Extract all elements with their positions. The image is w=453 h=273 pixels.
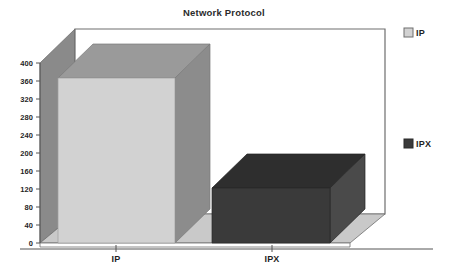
y-tick-label: 400 — [20, 59, 33, 68]
network-protocol-bar-chart: Network Protocol — [0, 0, 453, 273]
legend-swatch-ip — [404, 28, 413, 37]
bar-ip-front-face — [58, 78, 175, 243]
y-axis: 400 360 320 280 240 200 160 120 80 40 0 — [20, 59, 40, 248]
y-tick-label: 240 — [20, 131, 33, 140]
bar-ipx-front-face — [212, 188, 330, 243]
legend-swatch-ipx — [404, 139, 413, 148]
legend-item-ipx[interactable]: IPX — [404, 139, 431, 149]
chart-container: Network Protocol — [0, 0, 453, 273]
y-tick-label: 200 — [20, 149, 33, 158]
x-category-label-ip: IP — [112, 254, 121, 264]
y-tick-label: 80 — [24, 203, 33, 212]
bar-ip-side-face — [175, 44, 210, 243]
bar-ipx[interactable] — [212, 154, 365, 243]
y-tick-label: 320 — [20, 95, 33, 104]
y-axis-ticks — [36, 63, 40, 243]
legend: IP IPX — [404, 28, 431, 149]
y-tick-label: 0 — [29, 239, 33, 248]
y-axis-tick-labels: 400 360 320 280 240 200 160 120 80 40 0 — [20, 59, 33, 248]
x-axis: IP IPX — [20, 245, 433, 264]
y-tick-label: 120 — [20, 185, 33, 194]
legend-label-ipx: IPX — [416, 139, 431, 149]
chart-title: Network Protocol — [183, 7, 265, 18]
legend-item-ip[interactable]: IP — [404, 28, 425, 38]
x-category-label-ipx: IPX — [264, 254, 279, 264]
floor-front-edge — [40, 243, 350, 247]
y-tick-label: 40 — [24, 221, 33, 230]
y-tick-label: 160 — [20, 167, 33, 176]
legend-label-ip: IP — [416, 28, 425, 38]
y-tick-label: 280 — [20, 113, 33, 122]
y-tick-label: 360 — [20, 77, 33, 86]
bar-ip[interactable] — [58, 44, 210, 243]
